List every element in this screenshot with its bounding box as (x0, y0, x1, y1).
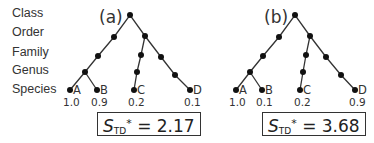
value-a-A: 1.0 (63, 96, 80, 108)
metric-equals: = (302, 116, 316, 136)
metric-box-a: STD* = 2.17 (97, 112, 201, 136)
species-b-A: A (239, 83, 247, 97)
metric-subscript: TD (114, 126, 126, 136)
value-a-C: 0.2 (128, 96, 145, 108)
species-b-D: D (358, 83, 367, 97)
metric-box-b: STD* = 3.68 (262, 112, 366, 136)
species-a-D: D (193, 83, 202, 97)
panel-a-label: (a) (99, 7, 123, 27)
metric-superscript: * (291, 117, 297, 130)
value-a-B: 0.9 (91, 96, 108, 108)
tree-b-nodes (233, 12, 358, 93)
species-b-C: C (303, 83, 311, 97)
value-b-A: 1.0 (229, 96, 246, 108)
value-b-D: 0.9 (349, 96, 366, 108)
metric-superscript: * (126, 117, 132, 130)
value-b-C: 0.2 (294, 96, 311, 108)
metric-value-b: 3.68 (322, 116, 360, 136)
value-a-D: 0.1 (184, 96, 201, 108)
tree-b (236, 15, 355, 90)
panel-b-label: (b) (264, 7, 288, 27)
metric-equals: = (137, 116, 151, 136)
species-a-A: A (73, 83, 81, 97)
species-a-C: C (137, 83, 145, 97)
tree-a (70, 15, 190, 90)
tree-a-nodes (67, 12, 193, 93)
metric-symbol: S (103, 116, 114, 136)
metric-value-a: 2.17 (157, 116, 195, 136)
species-a-B: B (100, 83, 108, 97)
metric-symbol: S (268, 116, 279, 136)
species-b-B: B (265, 83, 273, 97)
value-b-B: 0.1 (256, 96, 273, 108)
metric-subscript: TD (279, 126, 291, 136)
